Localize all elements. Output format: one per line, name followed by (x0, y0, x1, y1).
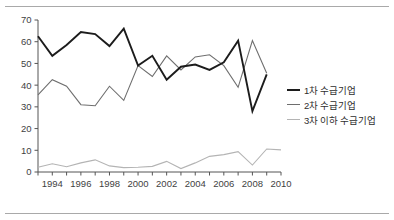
y-axis-tick-label: 0 (26, 166, 31, 177)
y-axis-tick-label: 10 (21, 145, 32, 156)
x-axis-tick-label: 1998 (99, 178, 120, 189)
figure: 0102030405060701994199619982000200220042… (0, 0, 394, 220)
legend-item-series-1: 1차 수급기업 (287, 82, 392, 97)
x-axis-tick-label: 2002 (156, 178, 177, 189)
bottom-divider-rule (5, 213, 389, 214)
y-axis-tick-label: 30 (21, 101, 32, 112)
legend-item-series-2: 2차 수급기업 (287, 97, 392, 112)
series-line-3 (38, 149, 281, 169)
legend-swatch-series-2 (287, 104, 300, 105)
legend-item-series-3: 3차 이하 수급기업 (287, 112, 392, 127)
x-axis-tick-label: 2006 (213, 178, 234, 189)
y-axis-tick-label: 20 (21, 123, 32, 134)
x-axis-tick-label: 2008 (242, 178, 263, 189)
legend-swatch-series-1 (287, 89, 300, 91)
legend-swatch-series-3 (287, 119, 300, 120)
top-divider-rule (5, 6, 389, 7)
chart-legend: 1차 수급기업 2차 수급기업 3차 이하 수급기업 (287, 82, 392, 127)
y-axis-tick-label: 60 (21, 36, 32, 47)
legend-label-series-3: 3차 이하 수급기업 (304, 113, 376, 127)
y-axis-tick-label: 70 (21, 14, 32, 25)
legend-label-series-1: 1차 수급기업 (304, 83, 356, 97)
series-line-1 (38, 29, 267, 112)
y-axis-tick-label: 50 (21, 58, 32, 69)
x-axis-tick-label: 2000 (127, 178, 148, 189)
y-axis-tick-label: 40 (21, 80, 32, 91)
legend-label-series-2: 2차 수급기업 (304, 98, 356, 112)
x-axis-tick-label: 2004 (185, 178, 206, 189)
x-axis-tick-label: 1994 (42, 178, 63, 189)
x-axis-tick-label: 1996 (70, 178, 91, 189)
x-axis-tick-label: 2010 (270, 178, 291, 189)
